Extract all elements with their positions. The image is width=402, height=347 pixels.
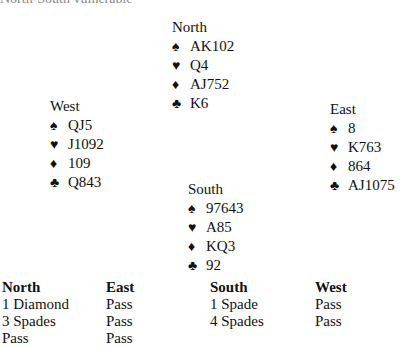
heart-icon: ♥ (330, 138, 348, 157)
diamond-icon: ♦ (330, 157, 348, 176)
east-clubs: ♣AJ1075 (330, 176, 395, 195)
hand-south: South ♠97643 ♥A85 ♦KQ3 ♣92 (188, 180, 244, 275)
heart-icon: ♥ (172, 56, 190, 75)
club-icon: ♣ (172, 94, 190, 113)
west-spades: ♠QJ5 (50, 116, 104, 135)
west-clubs: ♣Q843 (50, 173, 104, 192)
auction-header-east: East (106, 279, 134, 296)
auction-header-south: South (210, 279, 264, 296)
auction-bid: Pass (106, 330, 134, 347)
south-clubs: ♣92 (188, 256, 244, 275)
auction-bid: 1 Spade (210, 296, 264, 313)
south-spades: ♠97643 (188, 199, 244, 218)
vulnerability-caption: North-South vulnerable (0, 0, 133, 7)
north-hearts: ♥Q4 (172, 56, 234, 75)
auction-column-east: East Pass Pass Pass (106, 279, 134, 347)
player-label-east: East (330, 100, 395, 119)
spade-icon: ♠ (188, 199, 206, 218)
auction-column-south: South 1 Spade 4 Spades (210, 279, 264, 330)
heart-icon: ♥ (50, 135, 68, 154)
south-diamonds: ♦KQ3 (188, 237, 244, 256)
hand-east: East ♠8 ♥K763 ♦864 ♣AJ1075 (330, 100, 395, 195)
spade-icon: ♠ (172, 37, 190, 56)
diamond-icon: ♦ (188, 237, 206, 256)
auction-column-west: West Pass Pass (315, 279, 347, 330)
east-spades: ♠8 (330, 119, 395, 138)
spade-icon: ♠ (330, 119, 348, 138)
auction-bid: Pass (315, 313, 347, 330)
auction-bid: Pass (106, 296, 134, 313)
auction-bid: 1 Diamond (2, 296, 69, 313)
auction-header-north: North (2, 279, 69, 296)
auction-bid: Pass (315, 296, 347, 313)
diamond-icon: ♦ (50, 154, 68, 173)
auction-bid: Pass (2, 330, 69, 347)
west-diamonds: ♦109 (50, 154, 104, 173)
auction-bid: 3 Spades (2, 313, 69, 330)
auction-column-north: North 1 Diamond 3 Spades Pass (2, 279, 69, 347)
club-icon: ♣ (50, 173, 68, 192)
north-spades: ♠AK102 (172, 37, 234, 56)
hand-north: North ♠AK102 ♥Q4 ♦AJ752 ♣K6 (172, 18, 234, 113)
west-hearts: ♥J1092 (50, 135, 104, 154)
spade-icon: ♠ (50, 116, 68, 135)
east-diamonds: ♦864 (330, 157, 395, 176)
club-icon: ♣ (330, 176, 348, 195)
east-hearts: ♥K763 (330, 138, 395, 157)
auction-header-west: West (315, 279, 347, 296)
auction-bid: Pass (106, 313, 134, 330)
south-hearts: ♥A85 (188, 218, 244, 237)
diamond-icon: ♦ (172, 75, 190, 94)
north-clubs: ♣K6 (172, 94, 234, 113)
player-label-north: North (172, 18, 234, 37)
club-icon: ♣ (188, 256, 206, 275)
auction-bid: 4 Spades (210, 313, 264, 330)
north-diamonds: ♦AJ752 (172, 75, 234, 94)
heart-icon: ♥ (188, 218, 206, 237)
hand-west: West ♠QJ5 ♥J1092 ♦109 ♣Q843 (50, 97, 104, 192)
player-label-south: South (188, 180, 244, 199)
player-label-west: West (50, 97, 104, 116)
